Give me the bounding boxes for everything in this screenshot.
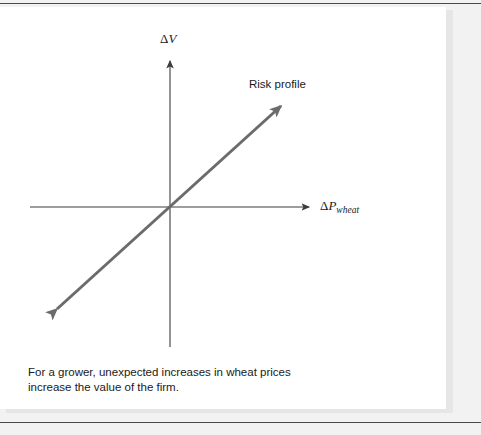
- page-background: ΔV ΔPwheat Risk profile For a grower, un…: [0, 0, 481, 435]
- bottom-rule-divider: [0, 422, 481, 423]
- risk-profile-annotation: Risk profile: [249, 78, 306, 90]
- x-axis-label: ΔPwheat: [320, 198, 359, 214]
- top-rule-divider: [0, 3, 481, 4]
- figure-panel: ΔV ΔPwheat Risk profile For a grower, un…: [0, 7, 446, 409]
- x-axis-subscript: wheat: [336, 205, 359, 215]
- y-axis-label: ΔV: [160, 31, 176, 47]
- y-axis-variable: V: [168, 31, 176, 46]
- figure-caption: For a grower, unexpected increases in wh…: [28, 365, 328, 395]
- risk-profile-chart: [0, 7, 446, 357]
